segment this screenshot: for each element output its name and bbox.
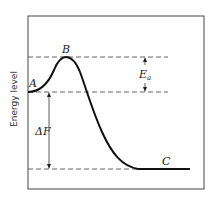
free-energy-label: ΔF [34,125,51,138]
point-label-C: C [162,155,171,168]
y-axis-label: Energy level [9,71,19,127]
activation-energy-label: Ea [138,68,151,82]
energy-diagram: Energy level A B C Ea ΔF [0,0,215,197]
point-label-B: B [61,43,70,56]
plot-frame [28,16,204,189]
energy-curve [28,57,190,169]
point-label-A: A [28,77,37,90]
